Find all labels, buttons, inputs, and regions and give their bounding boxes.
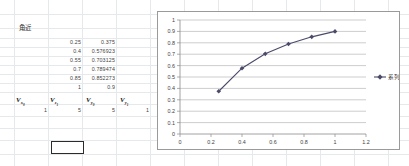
variable-value-cell[interactable]: 1 xyxy=(18,106,47,115)
y-tick-label: 0.3 xyxy=(168,97,176,103)
table-cell-y[interactable]: 0.375 xyxy=(86,38,115,47)
table-cell-x[interactable]: 0.25 xyxy=(52,38,81,47)
x-axis-ticks xyxy=(180,134,366,137)
spreadsheet-canvas[interactable]: 角近 0.25 0.375 0.4 0.576923 0.55 0.703125… xyxy=(0,0,409,166)
y-tick-label: 0.5 xyxy=(168,74,176,80)
variable-value-cell[interactable]: 1 xyxy=(120,106,149,115)
table-cell-y[interactable]: 0.703125 xyxy=(86,56,115,65)
y-tick-label: 0.7 xyxy=(168,51,176,57)
y-tick-label: 0.6 xyxy=(168,63,176,69)
x-tick-label: 0.6 xyxy=(269,139,277,145)
x-tick-label: 0.4 xyxy=(238,139,246,145)
table-cell-y[interactable]: 0.789474 xyxy=(86,65,115,74)
label-cell-text: 角近 xyxy=(19,23,31,32)
legend-marker-icon xyxy=(377,74,382,80)
table-cell-x[interactable]: 1 xyxy=(52,83,81,92)
y-tick-label: 0 xyxy=(172,131,175,137)
legend-label: 系列1 xyxy=(388,73,399,81)
y-tick-label: 0.4 xyxy=(168,85,176,91)
data-point-marker xyxy=(286,42,291,47)
variable-value-cell[interactable]: 5 xyxy=(52,106,81,115)
table-cell-y[interactable]: 0.9 xyxy=(86,83,115,92)
y-tick-label: 0.2 xyxy=(168,108,176,114)
table-cell-x[interactable]: 0.7 xyxy=(52,65,81,74)
chart-svg: 1 0.9 0.8 0.7 0.6 0.5 0.4 0.3 0.2 0.1 0 … xyxy=(158,12,399,149)
x-tick-label: 1.2 xyxy=(362,139,370,145)
variable-value-cell[interactable]: 5 xyxy=(86,106,115,115)
chart-gridlines xyxy=(180,20,366,123)
x-tick-label: 0.2 xyxy=(207,139,215,145)
y-tick-label: 0.8 xyxy=(168,40,176,46)
chart-legend[interactable]: 系列1 xyxy=(374,73,399,81)
y-tick-label: 0.1 xyxy=(168,120,176,126)
table-cell-x[interactable]: 0.85 xyxy=(52,74,81,83)
y-axis-tick-labels: 1 0.9 0.8 0.7 0.6 0.5 0.4 0.3 0.2 0.1 0 xyxy=(168,17,176,137)
selected-cell[interactable] xyxy=(51,141,84,154)
series-line xyxy=(219,31,335,91)
table-cell-x[interactable]: 0.4 xyxy=(52,47,81,56)
table-cell-x[interactable]: 0.55 xyxy=(52,56,81,65)
data-point-marker xyxy=(309,35,314,40)
data-point-marker xyxy=(333,29,338,34)
embedded-chart[interactable]: 1 0.9 0.8 0.7 0.6 0.5 0.4 0.3 0.2 0.1 0 … xyxy=(157,11,400,150)
table-cell-y[interactable]: 0.852273 xyxy=(86,74,115,83)
x-tick-label: 0.8 xyxy=(300,139,308,145)
y-axis-ticks xyxy=(177,20,180,134)
x-axis-tick-labels: 0 0.2 0.4 0.6 0.8 1 1.2 xyxy=(179,139,370,145)
x-tick-label: 1 xyxy=(334,139,337,145)
y-tick-label: 1 xyxy=(172,17,175,23)
series-markers xyxy=(216,29,337,93)
table-cell-y[interactable]: 0.576923 xyxy=(86,47,115,56)
x-tick-label: 0 xyxy=(179,139,182,145)
grid-line-horizontal xyxy=(0,154,409,155)
y-tick-label: 0.9 xyxy=(168,28,176,34)
